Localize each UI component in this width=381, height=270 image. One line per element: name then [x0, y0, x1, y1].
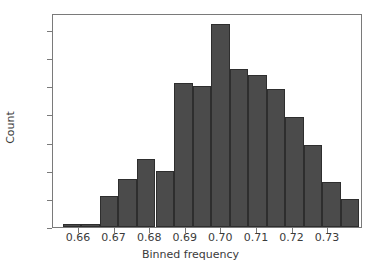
- histogram-bar: [193, 86, 212, 227]
- histogram-bar: [81, 224, 100, 227]
- histogram-bar: [211, 24, 230, 227]
- histogram-bar: [322, 182, 341, 227]
- histogram-bar: [174, 83, 193, 227]
- histogram-bar: [100, 196, 119, 227]
- x-axis-label: Binned frequency: [0, 248, 381, 261]
- x-tick-label: 0.73: [302, 232, 352, 243]
- histogram-bar: [118, 179, 137, 227]
- histogram-bar: [137, 159, 156, 227]
- y-tick-mark: [47, 228, 52, 229]
- y-axis-label: Count: [4, 111, 17, 144]
- histogram-bar: [304, 145, 323, 227]
- histogram-bar: [248, 75, 267, 227]
- histogram-bar: [341, 199, 360, 227]
- histogram-bar: [285, 117, 304, 227]
- histogram-figure: Count 010203040506070 0.660.670.680.690.…: [0, 0, 381, 270]
- plot-area: [52, 14, 362, 228]
- histogram-bar: [63, 224, 82, 227]
- histogram-bar: [156, 171, 175, 227]
- histogram-bar: [230, 69, 249, 227]
- histogram-bars: [53, 15, 361, 227]
- histogram-bar: [267, 89, 286, 227]
